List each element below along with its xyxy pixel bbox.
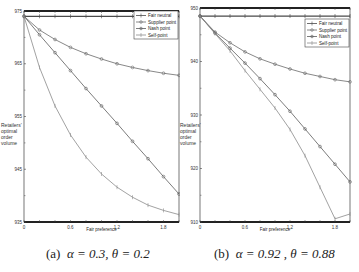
caption-params: α = 0.92 , θ = 0.88 [236, 246, 335, 261]
caption-tag: (a) [46, 246, 60, 261]
y-tick-label: 910 [190, 220, 198, 225]
legend-entry: Fair neutral [319, 21, 342, 26]
y-tick-label: 955 [14, 114, 22, 119]
caption-a: (a) α = 0.3, θ = 0.2 [46, 246, 150, 262]
x-tick-label: 1.8 [160, 225, 167, 230]
legend-entry: Nash point [319, 34, 342, 39]
legend-entry: Self-point [319, 41, 339, 46]
series-nash-point [23, 15, 180, 196]
y-tick-label: 965 [14, 61, 22, 66]
legend-entry: Self-point [148, 33, 168, 38]
legend-entry: Supplier point [148, 20, 177, 25]
caption-tag: (b) [214, 246, 229, 261]
plot-frame [24, 11, 179, 222]
chart-panel-b: 95094093092091000.61.21.8Fair preference… [178, 0, 359, 272]
line-chart-b: 95094093092091000.61.21.8Fair preference… [178, 0, 359, 232]
y-tick-label: 975 [14, 9, 22, 14]
y-tick-label: 950 [190, 6, 198, 11]
legend-entry: Supplier point [319, 28, 348, 33]
ylabel-line: volume [1, 140, 22, 146]
legend: Fair neutralSupplier pointNash pointSelf… [305, 19, 349, 47]
y-tick-label: 945 [14, 167, 22, 172]
caption-b: (b) α = 0.92 , θ = 0.88 [214, 246, 335, 262]
y-tick-label: 940 [190, 59, 198, 64]
ylabel-line: volume [180, 140, 201, 146]
caption-params: α = 0.3, θ = 0.2 [67, 246, 150, 261]
x-axis-label: Fair preference [86, 227, 117, 232]
series-self-point [24, 14, 179, 216]
x-tick-label: 0.6 [67, 225, 74, 230]
y-tick-label: 930 [190, 113, 198, 118]
legend-entry: Nash point [148, 26, 171, 31]
chart-panel-a: 97596595594593500.61.21.8Fair preference… [0, 0, 180, 272]
line-chart-a: 97596595594593500.61.21.8Fair preference… [0, 0, 180, 232]
legend-entry: Fair neutral [148, 13, 171, 18]
x-tick-label: 0.6 [242, 225, 249, 230]
series-fair-neutral [200, 14, 350, 18]
x-tick-label: 0 [23, 225, 26, 230]
y-axis-label-b: Retailers' optimal order volume [180, 122, 201, 146]
x-axis-label: Fair preference [260, 227, 291, 232]
y-tick-label: 935 [14, 220, 22, 225]
legend: Fair neutralSupplier pointNash pointSelf… [134, 11, 178, 39]
y-axis-label-a: Retailers' optimal order volume [1, 122, 22, 146]
x-tick-label: 0 [199, 225, 202, 230]
x-tick-label: 1.8 [332, 225, 339, 230]
y-tick-label: 920 [190, 166, 198, 171]
